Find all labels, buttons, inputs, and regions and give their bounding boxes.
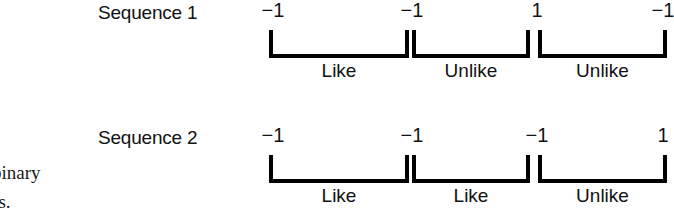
sequence-row: Sequence 2−1−1−11LikeLikeUnlike (0, 125, 674, 222)
pair-bracket (269, 155, 409, 183)
sequence-value: −1 (262, 0, 285, 20)
bracket-base (269, 179, 409, 183)
pair-relation-label: Unlike (576, 186, 629, 205)
bracket-right-stem (526, 155, 530, 183)
pair-bracket (269, 30, 409, 58)
pair-bracket (538, 155, 667, 183)
binary-sequence-figure: binary es. Sequence 1−1−11−1LikeUnlikeUn… (0, 0, 674, 223)
pair-bracket (412, 30, 530, 58)
bracket-base (412, 179, 530, 183)
sequence-value: −1 (401, 125, 424, 145)
bracket-base (412, 54, 530, 58)
sequence-label: Sequence 2 (98, 127, 197, 149)
pair-relation-label: Like (322, 186, 357, 205)
bracket-right-stem (526, 30, 530, 58)
sequence-value: −1 (526, 125, 549, 145)
pair-relation-label: Unlike (445, 61, 498, 80)
bracket-right-stem (663, 155, 667, 183)
sequence-value: 1 (657, 125, 668, 145)
sequence-value: −1 (401, 0, 424, 20)
bracket-base (538, 179, 667, 183)
bracket-right-stem (405, 30, 409, 58)
bracket-right-stem (663, 30, 667, 58)
bracket-right-stem (405, 155, 409, 183)
sequence-value: −1 (652, 0, 674, 20)
sequence-value: 1 (531, 0, 542, 20)
pair-relation-label: Like (322, 61, 357, 80)
sequence-value: −1 (262, 125, 285, 145)
bracket-base (269, 54, 409, 58)
pair-relation-label: Like (454, 186, 489, 205)
sequence-label: Sequence 1 (98, 2, 197, 24)
sequence-row: Sequence 1−1−11−1LikeUnlikeUnlike (0, 0, 674, 97)
pair-relation-label: Unlike (576, 61, 629, 80)
pair-bracket (412, 155, 530, 183)
pair-bracket (538, 30, 667, 58)
bracket-base (538, 54, 667, 58)
